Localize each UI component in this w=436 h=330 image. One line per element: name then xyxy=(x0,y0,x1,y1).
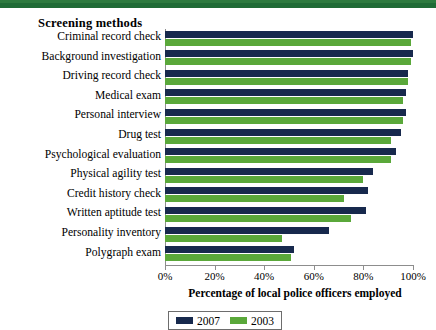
category-label: Medical exam xyxy=(95,89,161,102)
bar-row: Personal interview xyxy=(165,107,413,127)
legend-label-2007: 2007 xyxy=(197,315,220,327)
x-axis-tick-label: 40% xyxy=(254,270,274,282)
category-label: Written aptitude test xyxy=(67,206,161,219)
bar-2003 xyxy=(165,176,363,183)
bar-2007 xyxy=(165,168,373,175)
category-label: Personal interview xyxy=(74,108,161,121)
top-green-band xyxy=(0,0,436,8)
bar-2007 xyxy=(165,31,413,38)
legend-label-2003: 2003 xyxy=(251,315,274,327)
bar-row: Written aptitude test xyxy=(165,205,413,225)
bar-2003 xyxy=(165,156,391,163)
bar-2003 xyxy=(165,195,344,202)
bar-2003 xyxy=(165,58,411,65)
x-axis-tick-label: 100% xyxy=(400,270,426,282)
bar-row: Psychological evaluation xyxy=(165,147,413,167)
bar-2003 xyxy=(165,137,391,144)
category-label: Drug test xyxy=(118,128,161,141)
bar-2007 xyxy=(165,148,396,155)
legend-item-2003: 2003 xyxy=(230,315,274,327)
chart-legend: 2007 2003 xyxy=(168,311,282,330)
bar-2007 xyxy=(165,89,406,96)
bar-2007 xyxy=(165,109,406,116)
x-axis-tick-label: 20% xyxy=(205,270,225,282)
legend-item-2007: 2007 xyxy=(176,315,220,327)
category-label: Psychological evaluation xyxy=(45,148,161,161)
bar-row: Criminal record check xyxy=(165,29,413,49)
bar-2003 xyxy=(165,39,411,46)
bar-row: Drug test xyxy=(165,127,413,147)
bar-2003 xyxy=(165,254,291,261)
bar-2007 xyxy=(165,227,329,234)
x-axis-title: Percentage of local police officers empl… xyxy=(165,287,425,299)
bar-2003 xyxy=(165,235,282,242)
bar-2007 xyxy=(165,187,368,194)
plot-area: Criminal record checkBackground investig… xyxy=(165,29,413,265)
bar-2007 xyxy=(165,50,413,57)
bar-2003 xyxy=(165,215,351,222)
bar-row: Driving record check xyxy=(165,68,413,88)
x-axis-tick-label: 60% xyxy=(304,270,324,282)
bar-2007 xyxy=(165,207,366,214)
x-axis-tick-label: 0% xyxy=(158,270,173,282)
bar-2007 xyxy=(165,70,408,77)
category-label: Credit history check xyxy=(67,187,161,200)
bar-row: Credit history check xyxy=(165,186,413,206)
band-highlight xyxy=(0,0,436,3)
bar-2003 xyxy=(165,117,403,124)
chart-category-axis-title: Screening methods xyxy=(38,16,142,31)
legend-swatch-2007 xyxy=(176,317,193,324)
bar-2003 xyxy=(165,78,408,85)
category-label: Personality inventory xyxy=(62,226,162,239)
x-axis-tick-label: 80% xyxy=(353,270,373,282)
category-label: Polygraph exam xyxy=(85,246,161,259)
bar-row: Background investigation xyxy=(165,49,413,69)
category-label: Physical agility test xyxy=(70,167,161,180)
category-label: Driving record check xyxy=(62,69,161,82)
bar-2007 xyxy=(165,129,401,136)
category-label: Criminal record check xyxy=(57,30,161,43)
legend-swatch-2003 xyxy=(230,317,247,324)
bar-chart: Screening methods Criminal record checkB… xyxy=(0,8,436,324)
category-label: Background investigation xyxy=(42,50,161,63)
bar-row: Medical exam xyxy=(165,88,413,108)
bar-2007 xyxy=(165,246,294,253)
bar-row: Physical agility test xyxy=(165,166,413,186)
bar-row: Polygraph exam xyxy=(165,245,413,265)
bar-row: Personality inventory xyxy=(165,225,413,245)
x-axis-line xyxy=(165,265,414,266)
bar-2003 xyxy=(165,97,403,104)
